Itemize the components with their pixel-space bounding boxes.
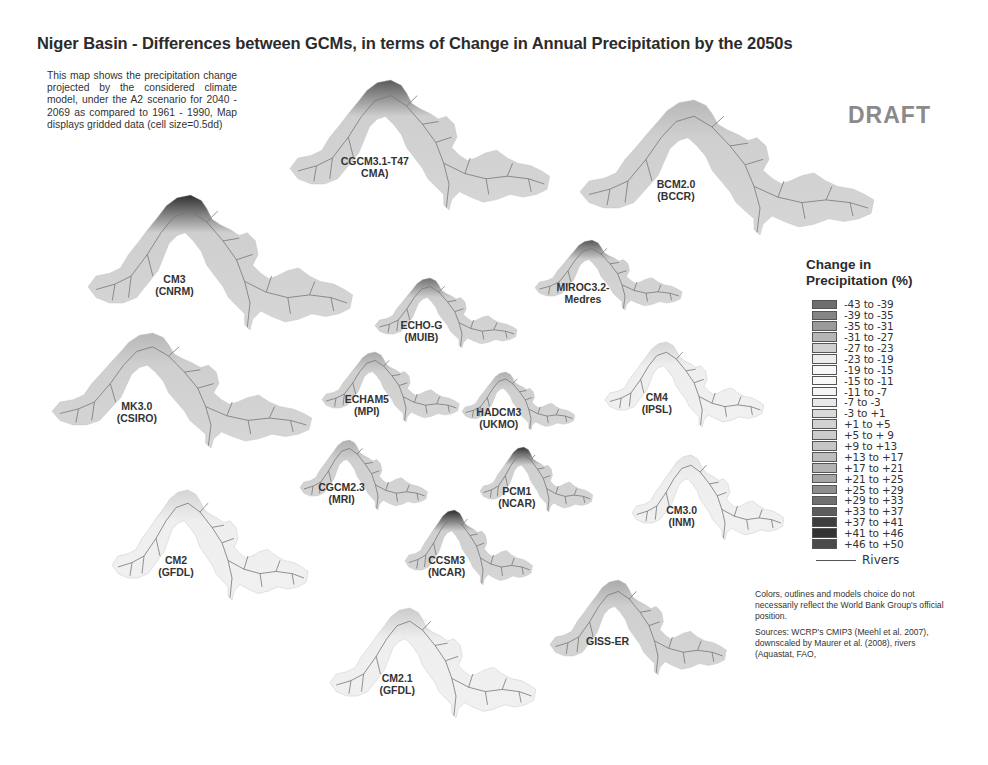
gcm-map-cm3_cnrm: CM3(CNRM) [88,195,358,330]
model-name: ECHO-G [400,319,442,331]
model-institution: (CNRM) [155,285,194,297]
legend-label: +21 to +25 [844,474,904,484]
model-institution: (BCCR) [657,190,696,202]
model-label: CM4(IPSL) [642,391,672,415]
legend-label: +13 to +17 [844,452,904,462]
legend-label: +1 to +5 [844,419,891,429]
model-label: GISS-ER [586,635,629,647]
legend-label: -7 to -3 [844,397,881,407]
basin-shape-icon [632,455,787,540]
legend-item: -23 to -19 [812,353,913,364]
legend-label: -27 to -23 [844,343,894,353]
model-label: BCM2.0(BCCR) [657,178,696,202]
model-institution: (CSIRO) [117,412,157,424]
gcm-map-giss_er: GISS-ER [550,580,730,675]
basin-shape-icon [550,580,730,675]
model-institution: (GFDL) [379,684,415,696]
legend-item: -39 to -35 [812,310,913,321]
legend-item: -43 to -39 [812,299,913,310]
model-name: CM2 [158,554,194,566]
legend-item: +1 to +5 [812,419,913,430]
legend-swatch [812,463,837,473]
basin-shape-icon [52,333,317,448]
legend-item: +37 to +41 [812,517,913,528]
legend-item: +9 to +13 [812,441,913,452]
legend-swatch [812,311,837,321]
model-institution: (NCAR) [428,566,465,578]
model-institution: Medres [556,293,609,305]
gcm-map-ccsm3: CCSM3(NCAR) [405,510,535,585]
legend-label: -31 to -27 [844,332,894,342]
legend-item: -15 to -11 [812,375,913,386]
basin-shape-icon [580,100,880,235]
model-label: CM2(GFDL) [158,554,194,578]
legend-swatch [812,496,837,506]
model-name: MIROC3.2- [556,281,609,293]
legend-label: +33 to +37 [844,506,904,516]
legend-label: -19 to -15 [844,365,894,375]
legend-label: -39 to -35 [844,310,894,320]
model-label: CCSM3(NCAR) [428,554,465,578]
legend-label: +37 to +41 [844,517,904,527]
basin-shape-icon [330,608,540,718]
legend-title-line2: Precipitation (%) [806,273,913,289]
model-name: CM3 [155,273,194,285]
model-name: CGCM3.1-T47 [341,155,409,167]
model-name: CM3.0 [666,504,697,516]
legend-swatch [812,517,837,527]
basin-shape-icon [88,195,358,330]
legend-label: +17 to +21 [844,463,904,473]
map-description: This map shows the precipitation change … [47,70,237,131]
legend-label: -11 to -7 [844,387,887,397]
legend-swatch [812,409,837,419]
legend-label: +41 to +46 [844,528,904,538]
legend-swatch [812,376,837,386]
legend-label: -3 to +1 [844,408,886,418]
basin-shape-icon [375,278,520,348]
disclaimer-text: Colors, outlines and models choice do no… [755,589,951,622]
model-name: CGCM2.3 [318,481,365,493]
gcm-map-echog: ECHO-G(MUIB) [375,278,520,348]
legend-item: -27 to -23 [812,343,913,354]
legend-swatch [812,507,837,517]
legend-item: -7 to -3 [812,397,913,408]
legend-item: +5 to + 9 [812,430,913,441]
model-name: ECHAM5 [345,393,389,405]
model-label: CM2.1(GFDL) [379,672,415,696]
legend-title-line1: Change in [806,257,913,273]
model-name: CCSM3 [428,554,465,566]
gcm-map-bcm20: BCM2.0(BCCR) [580,100,880,235]
gcm-map-mk30: MK3.0(CSIRO) [52,333,317,448]
model-institution: (IPSL) [642,403,672,415]
model-institution: (MRI) [318,493,365,505]
gcm-map-cgcm31: CGCM3.1-T47CMA) [290,80,555,210]
model-institution: (MUIB) [400,331,442,343]
legend-item: +29 to +33 [812,495,913,506]
gcm-map-pcm1: PCM1(NCAR) [480,447,595,512]
legend-swatch [812,452,837,462]
legend-swatch [812,300,837,310]
gcm-map-cm4_ipsl: CM4(IPSL) [605,342,767,427]
legend-swatch [812,528,837,538]
gcm-map-cm2_gfdl: CM2(GFDL) [112,490,312,600]
legend-label: -35 to -31 [844,321,894,331]
legend-swatch [812,398,837,408]
precipitation-legend: Change in Precipitation (%) -43 to -39-3… [806,257,913,567]
legend-item: +17 to +21 [812,462,913,473]
map-title: Niger Basin - Differences between GCMs, … [37,34,792,53]
gcm-map-cgcm23: CGCM2.3(MRI) [300,440,430,510]
model-label: ECHO-G(MUIB) [400,319,442,343]
legend-items: -43 to -39-39 to -35-35 to -31-31 to -27… [812,299,913,549]
model-institution: (INM) [666,516,697,528]
basin-shape-icon [605,342,767,427]
model-name: CM2.1 [379,672,415,684]
legend-swatch [812,321,837,331]
legend-item: +33 to +37 [812,506,913,517]
rivers-label: Rivers [862,553,899,567]
legend-swatch [812,419,837,429]
legend-item: +41 to +46 [812,528,913,539]
legend-swatch [812,365,837,375]
legend-rivers: Rivers [816,553,913,567]
basin-shape-icon [112,490,312,600]
model-institution: CMA) [341,167,409,179]
